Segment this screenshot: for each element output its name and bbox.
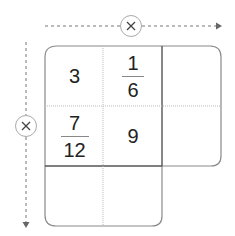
fraction-bar [122, 76, 144, 77]
cell-r2c2: 9 [104, 107, 162, 166]
fraction-bar [61, 136, 89, 137]
cell-value: 9 [127, 125, 138, 148]
vertical-multiply-icon [16, 116, 37, 137]
cell-value: 3 [69, 65, 80, 88]
cell-r2c1: 7 12 [46, 107, 103, 166]
cell-r3c1[interactable] [46, 167, 103, 225]
horizontal-multiply-icon [121, 16, 142, 37]
cell-r1c3[interactable] [163, 47, 220, 106]
denominator: 6 [127, 80, 138, 100]
fraction: 1 6 [122, 53, 144, 100]
fraction: 7 12 [61, 113, 89, 160]
cell-r3c2[interactable] [104, 167, 162, 225]
cell-r1c1: 3 [46, 47, 103, 106]
denominator: 12 [63, 140, 85, 160]
cell-r1c2: 1 6 [104, 47, 162, 106]
cell-r2c3[interactable] [163, 107, 220, 166]
numerator: 1 [127, 53, 138, 73]
numerator: 7 [69, 113, 80, 133]
